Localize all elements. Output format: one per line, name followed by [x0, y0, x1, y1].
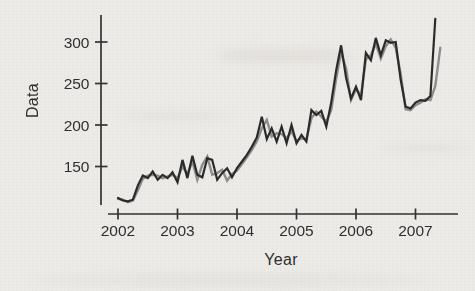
x-axis-title: Year — [231, 251, 331, 269]
x-tick-label: 2002 — [101, 222, 135, 239]
chart-canvas: 150200250300200220032004200520062007 — [0, 0, 475, 291]
y-tick-label: 300 — [64, 34, 90, 51]
y-axis-title: Data — [24, 83, 42, 118]
y-tick-label: 150 — [64, 158, 90, 175]
y-tick-label: 200 — [64, 117, 90, 134]
x-tick-label: 2006 — [339, 222, 373, 239]
y-tick-label: 250 — [64, 75, 90, 92]
x-tick-label: 2004 — [220, 222, 255, 239]
x-tick-label: 2007 — [398, 222, 432, 239]
x-tick-label: 2005 — [279, 222, 313, 239]
chart-figure: 150200250300200220032004200520062007 Dat… — [0, 0, 475, 291]
x-tick-label: 2003 — [160, 222, 194, 239]
black-line — [118, 19, 435, 202]
